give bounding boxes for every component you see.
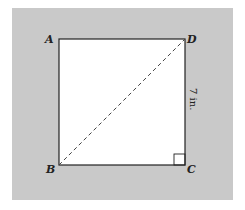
square-diagram: A D B C 7 in. — [0, 0, 245, 210]
vertex-label-d: D — [186, 33, 197, 46]
square-abcd — [59, 39, 185, 165]
vertex-label-c: C — [187, 163, 196, 176]
side-length-label: 7 in. — [188, 88, 199, 110]
vertex-label-a: A — [44, 33, 54, 46]
vertex-label-b: B — [45, 163, 55, 176]
